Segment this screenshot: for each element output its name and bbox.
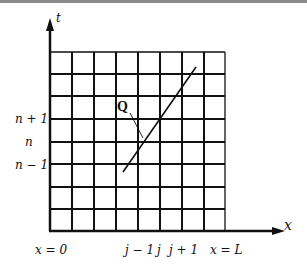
x-axis — [49, 227, 285, 235]
t-axis-label: t — [56, 11, 61, 25]
q-leader-line — [130, 113, 143, 138]
x-label-j: j — [154, 243, 161, 257]
x-axis-label: x — [284, 217, 292, 233]
t-label-n: n — [25, 135, 33, 149]
t-label-n-plus-1: n + 1 — [15, 112, 48, 126]
t-axis-arrow-icon — [46, 18, 54, 31]
x-label-L: x = L — [210, 243, 242, 257]
t-label-n-minus-1: n − 1 — [15, 158, 48, 172]
x-label-j-plus-1: j + 1 — [166, 243, 198, 257]
grid — [50, 52, 225, 231]
x-label-j-minus-1: j − 1 — [122, 243, 154, 257]
point-q-label: Q — [117, 99, 128, 114]
grid-diagram: t x n + 1 n n − 1 x = 0 j − 1 j j + 1 x … — [0, 0, 307, 267]
x-label-zero: x = 0 — [35, 243, 67, 257]
